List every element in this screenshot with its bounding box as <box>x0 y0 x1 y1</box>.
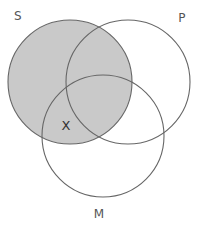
set-label-p: P <box>178 11 186 25</box>
set-label-s: S <box>14 9 22 23</box>
venn-diagram: S P M X <box>0 0 205 227</box>
venn-diagram-canvas: S P M X <box>0 0 205 227</box>
x-mark: X <box>62 118 71 133</box>
set-label-m: M <box>94 207 105 221</box>
